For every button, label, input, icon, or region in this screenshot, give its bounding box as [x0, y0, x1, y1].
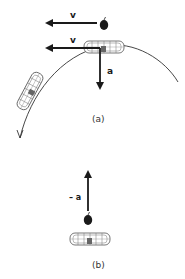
car-top-icon [84, 41, 124, 53]
car-b-icon [70, 233, 110, 245]
curved-path [20, 45, 178, 138]
panel-b-caption: (b) [92, 260, 105, 270]
panel-a: v v a (a) [15, 10, 178, 138]
path-arrow-icon [17, 130, 23, 138]
car-velocity-label: v [70, 35, 76, 45]
panel-b: – a (b) [69, 172, 110, 270]
diagram-canvas: v v a (a) – a [0, 0, 185, 279]
apple-b-icon [84, 212, 92, 225]
relative-acceleration-label: – a [69, 193, 81, 202]
apple-icon [100, 17, 108, 30]
panel-a-caption: (a) [92, 114, 105, 124]
car-acceleration-label: a [107, 66, 113, 76]
apple-velocity-label: v [70, 10, 76, 20]
